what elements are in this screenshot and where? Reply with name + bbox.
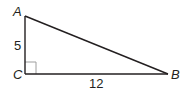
vertex-label-a: A — [12, 4, 22, 19]
vertex-label-c: C — [13, 67, 23, 82]
side-label-cb: 12 — [89, 76, 103, 91]
triangle-diagram: A C B 5 12 — [0, 0, 187, 97]
vertex-label-b: B — [171, 67, 180, 82]
right-angle-marker — [25, 62, 36, 74]
side-label-ac: 5 — [14, 38, 21, 53]
side-ab-hypotenuse — [25, 16, 168, 74]
